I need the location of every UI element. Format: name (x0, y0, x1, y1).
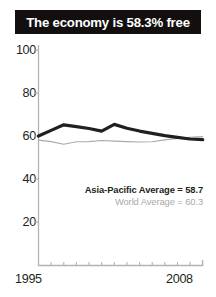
asia-pacific-average-line (39, 124, 203, 139)
chart-legend: Asia-Pacific Average = 58.7 World Averag… (60, 184, 203, 208)
legend-item-asia-pacific: Asia-Pacific Average = 58.7 (60, 184, 203, 196)
legend-item-world: World Average = 60.3 (60, 196, 203, 208)
plot-area (0, 0, 216, 297)
economic-freedom-chart-card: The economy is 58.3% free 100 80 60 40 2… (0, 0, 216, 297)
